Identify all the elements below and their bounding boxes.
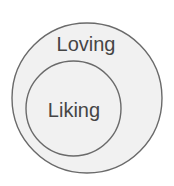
- outer-label: Loving: [57, 33, 116, 55]
- venn-diagram: Loving Liking: [0, 0, 174, 186]
- inner-label: Liking: [48, 99, 100, 121]
